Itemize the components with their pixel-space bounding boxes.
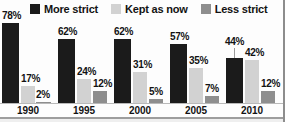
bar-label-1995-kept-as-now: 24% <box>77 67 96 77</box>
x-axis-label-2005: 2005 <box>170 105 222 116</box>
bar-group-2010: 44% 42% 12% <box>226 0 281 104</box>
bar-label-1995-less-strict: 12% <box>93 79 112 89</box>
bar-1995-kept-as-now <box>77 79 91 104</box>
bar-label-2005-more-strict: 57% <box>170 32 189 42</box>
bar-label-2000-more-strict: 62% <box>114 27 133 37</box>
bar-label-2010-more-strict: 44% <box>225 37 244 47</box>
bar-1995-more-strict <box>58 39 75 104</box>
bar-1990-more-strict <box>2 23 19 104</box>
bar-chart: More strict Kept as now Less strict 78% … <box>0 0 285 122</box>
axis-baseline <box>0 103 285 104</box>
bar-label-2005-kept-as-now: 35% <box>189 56 208 66</box>
bar-2005-kept-as-now <box>189 68 203 104</box>
x-axis-label-2010: 2010 <box>226 105 278 116</box>
bar-label-1995-more-strict: 62% <box>58 27 77 37</box>
bar-label-2005-less-strict: 7% <box>205 84 219 94</box>
x-axis-label-1995: 1995 <box>58 105 110 116</box>
bar-2000-more-strict <box>114 39 131 104</box>
bar-group-2005: 57% 35% 7% <box>170 0 222 104</box>
x-axis-label-1990: 1990 <box>2 105 54 116</box>
x-axis-label-2000: 2000 <box>114 105 166 116</box>
footer-band <box>0 119 285 122</box>
bar-label-2000-kept-as-now: 31% <box>133 60 152 70</box>
bar-label-1990-less-strict: 2% <box>36 90 50 100</box>
bar-label-2010-less-strict: 12% <box>261 79 280 89</box>
bar-label-1990-kept-as-now: 17% <box>21 74 40 84</box>
bar-group-1990: 78% 17% 2% <box>2 0 54 104</box>
leader-line-2010-more-strict <box>234 48 235 58</box>
bar-1990-kept-as-now <box>21 86 35 104</box>
bar-2010-more-strict <box>226 58 243 104</box>
bar-label-2000-less-strict: 5% <box>149 87 163 97</box>
bar-group-1995: 62% 24% 12% <box>58 0 110 104</box>
plot-area: 78% 17% 2% 62% 24% 12% 62% 31% 5% <box>0 0 285 104</box>
bar-label-1990-more-strict: 78% <box>2 11 21 21</box>
bar-group-2000: 62% 31% 5% <box>114 0 166 104</box>
bar-label-2010-kept-as-now: 42% <box>245 48 264 58</box>
bar-2000-kept-as-now <box>133 72 147 104</box>
bar-2005-more-strict <box>170 44 187 104</box>
bar-2010-kept-as-now <box>245 60 259 104</box>
